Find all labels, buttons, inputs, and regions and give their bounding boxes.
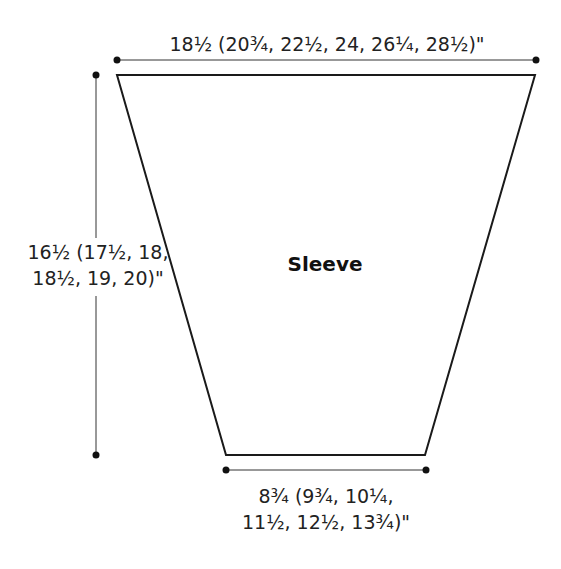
height-label: 16½ (17½, 18, 18½, 19, 20)" bbox=[0, 239, 196, 291]
top-width-text: 18½ (20¾, 22½, 24, 26¼, 28½)" bbox=[117, 31, 537, 57]
dimension-endpoint-dot bbox=[423, 467, 430, 474]
top-width-dimension-line bbox=[114, 57, 540, 64]
top-width-label: 18½ (20¾, 22½, 24, 26¼, 28½)" bbox=[117, 31, 537, 57]
piece-title: Sleeve bbox=[270, 252, 380, 276]
dimension-endpoint-dot bbox=[114, 57, 121, 64]
bottom-width-label: 8¾ (9¾, 10¼, 11½, 12½, 13¾)" bbox=[196, 483, 456, 535]
dimension-endpoint-dot bbox=[533, 57, 540, 64]
dimension-endpoint-dot bbox=[223, 467, 230, 474]
height-text-line1: 16½ (17½, 18, bbox=[0, 239, 196, 265]
dimension-endpoint-dot bbox=[93, 72, 100, 79]
bottom-width-text-line1: 8¾ (9¾, 10¼, bbox=[196, 483, 456, 509]
bottom-width-text-line2: 11½, 12½, 13¾)" bbox=[196, 509, 456, 535]
bottom-width-dimension-line bbox=[223, 467, 430, 474]
dimension-endpoint-dot bbox=[93, 452, 100, 459]
height-text-line2: 18½, 19, 20)" bbox=[0, 265, 196, 291]
